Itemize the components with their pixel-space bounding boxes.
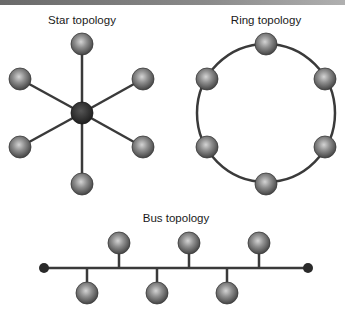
bus-node	[178, 232, 200, 254]
bus-node	[76, 282, 98, 304]
bus-node	[216, 282, 238, 304]
bus-terminator-left	[39, 263, 49, 273]
star-node	[9, 68, 31, 90]
ring-node	[196, 136, 218, 158]
bus-node	[146, 282, 168, 304]
ring-node	[196, 68, 218, 90]
star-node	[71, 173, 93, 195]
star-hub	[71, 102, 93, 124]
ring-node	[314, 136, 336, 158]
ring-node	[255, 173, 277, 195]
ring-node	[314, 68, 336, 90]
ring-topology	[196, 33, 336, 195]
star-topology	[9, 33, 154, 195]
bus-node	[108, 232, 130, 254]
topology-diagrams	[0, 0, 345, 314]
ring-node	[255, 33, 277, 55]
star-node	[9, 136, 31, 158]
star-node	[132, 136, 154, 158]
star-node	[132, 68, 154, 90]
bus-terminator-right	[303, 263, 313, 273]
ring-link	[197, 44, 335, 182]
bus-topology	[39, 232, 313, 304]
star-node	[71, 33, 93, 55]
bus-node	[248, 232, 270, 254]
